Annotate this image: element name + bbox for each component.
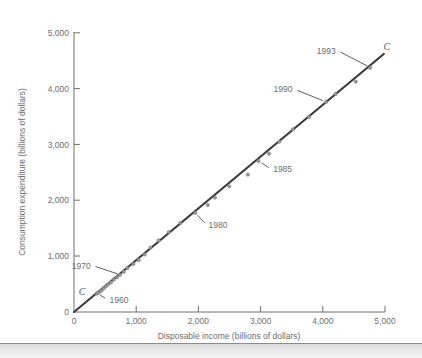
data-point-1975 [143, 253, 146, 256]
x-tick-label-1000: 1,000 [126, 316, 148, 326]
x-tick-labels: 0 1,000 2,000 3,000 4,000 5,000 [72, 316, 396, 326]
callout-leader-1970 [96, 267, 118, 274]
y-tick-label-2000: 2,000 [48, 195, 70, 205]
callout-leader-1980 [198, 215, 205, 222]
curve-label-c-lower-left: C [79, 286, 86, 297]
callout-leader-1985 [262, 163, 269, 168]
data-point-1981 [206, 203, 209, 206]
consumption-function-figure: 5,000 4,000 3,000 2,000 1,000 0 0 1,000 … [0, 0, 422, 358]
y-tick-label-4000: 4,000 [48, 84, 70, 94]
data-point-1992 [354, 80, 357, 83]
data-point-1985 [257, 159, 260, 162]
data-point-1980 [194, 211, 197, 214]
callout-leader-1993 [340, 52, 367, 66]
y-tick-label-1000: 1,000 [48, 251, 70, 261]
data-point-1973 [132, 262, 135, 265]
data-point-1989 [307, 115, 310, 118]
axes-group [74, 32, 385, 312]
data-point-1993 [368, 66, 371, 69]
data-point-1991 [334, 92, 337, 95]
data-point-1976 [149, 246, 152, 249]
annotation-layer: 196019701980198519901993 [72, 46, 368, 305]
data-point-1969 [115, 276, 118, 279]
scatter-chart: 5,000 4,000 3,000 2,000 1,000 0 0 1,000 … [0, 0, 422, 358]
bottom-gray-band [0, 344, 422, 358]
x-tick-label-2000: 2,000 [188, 316, 210, 326]
data-point-1987 [278, 140, 281, 143]
y-tick-label-3000: 3,000 [48, 140, 70, 150]
data-point-1974 [137, 258, 140, 261]
callout-label-1980: 1980 [208, 220, 227, 230]
callout-label-1960: 1960 [110, 295, 129, 305]
data-point-1970 [118, 273, 121, 276]
x-tick-label-0: 0 [72, 316, 77, 326]
data-point-1972 [126, 266, 129, 269]
y-axis-title: Consumption expenditure (billions of dol… [17, 88, 27, 256]
y-tick-label-0: 0 [64, 307, 69, 317]
x-axis-title: Disposable income (billions of dollars) [158, 331, 301, 341]
data-point-1968 [112, 278, 115, 281]
x-tick-label-4000: 4,000 [312, 316, 334, 326]
x-tick-label-5000: 5,000 [374, 316, 396, 326]
x-tick-label-3000: 3,000 [250, 316, 272, 326]
callout-leader-1960 [100, 295, 105, 299]
curve-label-c-upper-right: C [384, 41, 391, 52]
callout-label-1970: 1970 [72, 261, 91, 271]
callout-leader-1990 [297, 90, 323, 100]
data-point-1983 [227, 185, 230, 188]
y-tick-marks [74, 33, 80, 256]
data-point-1984 [246, 173, 249, 176]
data-point-1990 [324, 100, 327, 103]
callout-label-1985: 1985 [273, 164, 292, 174]
data-point-1988 [291, 128, 294, 131]
y-tick-label-5000: 5,000 [48, 28, 70, 38]
data-point-1977 [157, 239, 160, 242]
data-point-1971 [122, 270, 125, 273]
callout-label-1990: 1990 [274, 84, 293, 94]
y-tick-labels: 5,000 4,000 3,000 2,000 1,000 0 [48, 28, 70, 317]
callout-label-1993: 1993 [317, 46, 336, 56]
data-point-1978 [167, 230, 170, 233]
data-point-1982 [213, 196, 216, 199]
x-tick-marks [136, 306, 385, 312]
data-point-1967 [109, 281, 112, 284]
data-point-1986 [267, 152, 270, 155]
curve-label-layer: CC [79, 41, 391, 296]
data-point-1979 [179, 221, 182, 224]
